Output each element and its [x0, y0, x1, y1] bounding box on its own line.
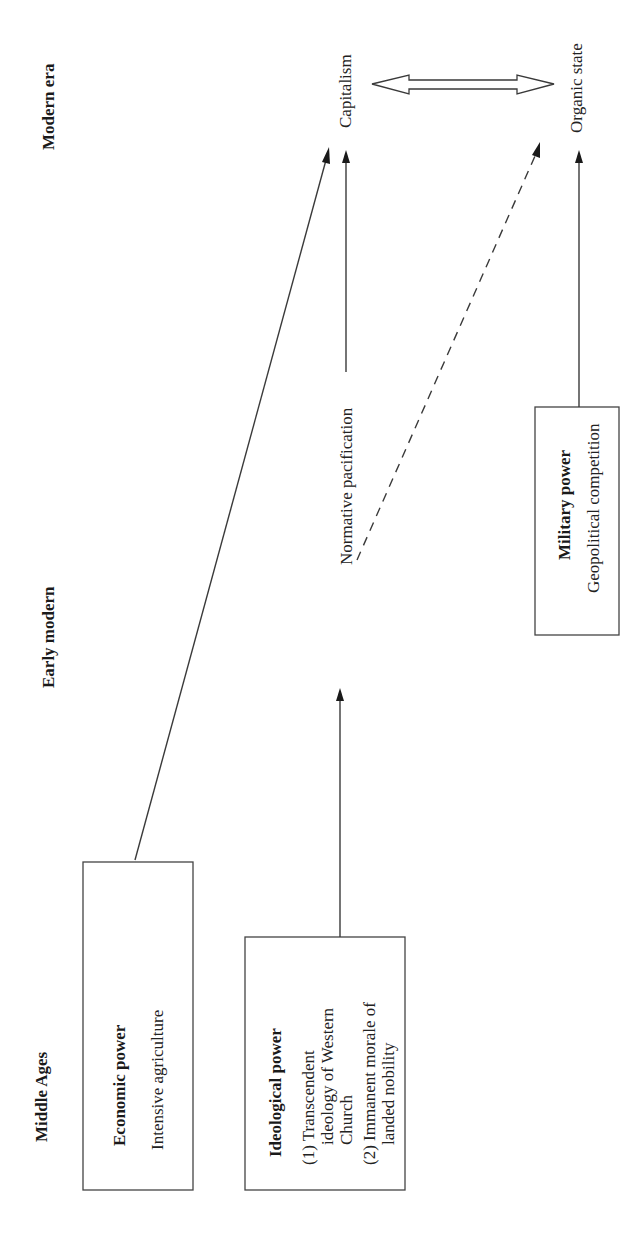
ideological-power-line-1: (1) Transcendent: [299, 1050, 318, 1165]
economic-power-line-1: Intensive agriculture: [148, 1010, 167, 1150]
edge-military-to-organic-state: [575, 150, 583, 407]
arrowhead-icon: [336, 688, 344, 701]
edge-line-dashed: [357, 156, 535, 560]
ideological-power-line-3: Church: [337, 1094, 356, 1145]
arrowhead-icon: [342, 150, 350, 163]
arrowhead-icon: [322, 147, 330, 164]
economic-power-title: Economic power: [110, 1024, 129, 1146]
military-power-box-frame: [535, 407, 619, 635]
ideological-power-line-4: (2) Immanent morale of: [360, 1002, 379, 1165]
double-headed-arrow-icon: [372, 75, 554, 94]
ideological-power-line-5: landed nobility: [379, 1042, 398, 1145]
era-label-middle-ages: Middle Ages: [32, 1051, 51, 1142]
edge-line: [135, 160, 326, 860]
edge-economic-to-capitalism: [135, 147, 330, 860]
node-organic-state: Organic state: [567, 43, 586, 133]
ideological-power-title: Ideological power: [266, 1028, 285, 1157]
military-power-box: Military power Geopolitical competition: [535, 407, 619, 635]
edge-capitalism-organic-state-mutual: [372, 75, 554, 94]
ideological-power-box: Ideological power (1) Transcendent ideol…: [245, 937, 405, 1190]
arrowhead-icon: [532, 142, 540, 158]
era-label-modern: Modern era: [39, 63, 58, 150]
ideological-power-line-2: ideology of Western: [318, 1007, 337, 1145]
edge-normative-to-capitalism: [342, 150, 350, 372]
era-label-early-modern: Early modern: [39, 586, 58, 688]
edge-normative-to-organic-state: [357, 142, 540, 560]
node-normative-pacification: Normative pacification: [337, 407, 356, 565]
edge-ideological-to-normative: [336, 688, 344, 937]
military-power-line-1: Geopolitical competition: [584, 423, 603, 593]
arrowhead-icon: [575, 150, 583, 163]
economic-power-box-frame: [83, 862, 193, 1190]
economic-power-box: Economic power Intensive agriculture: [83, 862, 193, 1190]
power-sources-diagram: Modern era Early modern Middle Ages Econ…: [0, 0, 631, 1254]
node-capitalism: Capitalism: [336, 54, 355, 128]
military-power-title: Military power: [555, 450, 574, 560]
